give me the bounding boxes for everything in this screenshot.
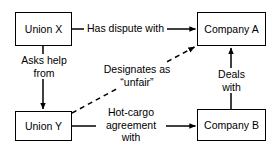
node-union-y-label: Union Y	[25, 121, 62, 132]
edge-label-has-dispute-with: Has dispute with	[84, 22, 167, 35]
edge-label-deals-with-line-1: Deals	[209, 68, 254, 81]
edge-label-hot-cargo-agreement-with-line-1: Hot-cargo	[98, 106, 164, 119]
relationship-diagram: Union X Company A Union Y Company B Has …	[0, 0, 280, 151]
edge-label-designates-as-unfair-line-2: “unfair”	[98, 76, 176, 89]
node-union-x-label: Union X	[25, 24, 62, 35]
edge-label-deals-with: Deals with	[209, 68, 254, 93]
edge-label-designates-as-unfair-line-1: Designates as	[98, 63, 176, 76]
edge-label-hot-cargo-agreement-with-line-3: with	[98, 131, 164, 144]
edge-label-deals-with-line-2: with	[209, 81, 254, 94]
edge-label-hot-cargo-agreement-with: Hot-cargo agreement with	[96, 106, 166, 144]
node-union-x[interactable]: Union X	[15, 12, 72, 46]
edge-label-has-dispute-with-line-1: Has dispute with	[87, 22, 164, 35]
edge-label-hot-cargo-agreement-with-line-2: agreement	[98, 119, 164, 132]
edge-label-asks-help-from-line-2: from	[14, 67, 74, 80]
node-company-b-label: Company B	[204, 120, 259, 131]
node-company-a-label: Company A	[204, 24, 258, 35]
edge-label-asks-help-from: Asks help from	[14, 54, 74, 79]
node-company-a[interactable]: Company A	[197, 12, 266, 46]
node-union-y[interactable]: Union Y	[15, 111, 72, 141]
edge-label-asks-help-from-line-1: Asks help	[14, 54, 74, 67]
edge-label-designates-as-unfair: Designates as “unfair”	[96, 63, 178, 88]
node-company-b[interactable]: Company B	[197, 109, 266, 141]
